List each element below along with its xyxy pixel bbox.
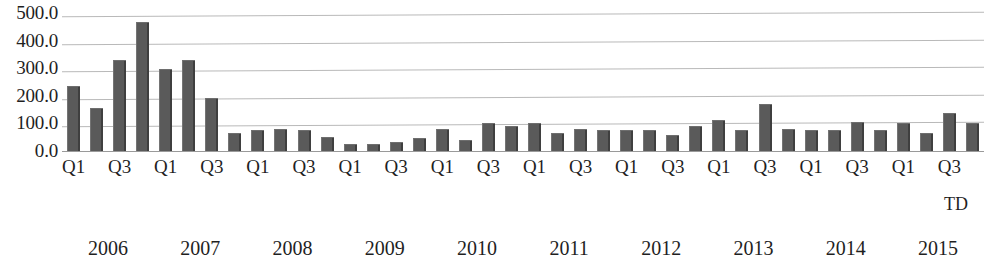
bar xyxy=(920,133,933,152)
quarter-tick-label: Q1 xyxy=(515,156,555,178)
bar xyxy=(782,129,795,152)
year-tick-label: 2007 xyxy=(170,236,230,260)
year-tick-label: 2011 xyxy=(539,236,599,260)
bar xyxy=(735,130,748,152)
bar xyxy=(505,126,518,152)
bar xyxy=(205,98,218,152)
bar xyxy=(620,130,633,152)
quarter-tick-label: Q1 xyxy=(330,156,370,178)
quarter-tick-label: Q3 xyxy=(468,156,508,178)
bar xyxy=(689,126,702,152)
quarter-tick-label: Q3 xyxy=(837,156,877,178)
quarter-tick-label: Q1 xyxy=(146,156,186,178)
bar xyxy=(643,130,656,152)
plot-area xyxy=(62,14,984,152)
bar xyxy=(67,86,80,152)
bar xyxy=(159,69,172,152)
year-tick-label: 2010 xyxy=(447,236,507,260)
quarter-tick-label: Q3 xyxy=(376,156,416,178)
quarter-tick-label: Q3 xyxy=(100,156,140,178)
year-tick-label: 2008 xyxy=(263,236,323,260)
bar xyxy=(182,60,195,152)
year-tick-label: 2013 xyxy=(724,236,784,260)
bar xyxy=(136,22,149,152)
bar xyxy=(874,130,887,152)
x-axis-line xyxy=(62,151,984,152)
quarter-tick-labels: Q1Q3Q1Q3Q1Q3Q1Q3Q1Q3Q1Q3Q1Q3Q1Q3Q1Q3Q1Q3 xyxy=(62,156,984,184)
bar xyxy=(712,120,725,152)
bar xyxy=(228,133,241,152)
bar xyxy=(966,123,979,152)
year-tick-label: 2015 xyxy=(908,236,968,260)
year-tick-label: 2009 xyxy=(355,236,415,260)
bar xyxy=(436,129,449,152)
y-tick-label: 200.0 xyxy=(16,86,58,105)
bar xyxy=(274,129,287,152)
quarter-tick-label: Q3 xyxy=(929,156,969,178)
bar xyxy=(321,137,334,152)
bar xyxy=(298,130,311,152)
year-tick-label: 2012 xyxy=(631,236,691,260)
bar xyxy=(551,133,564,152)
bar xyxy=(759,104,772,152)
bar xyxy=(528,123,541,152)
quarter-tick-label: Q1 xyxy=(607,156,647,178)
bar xyxy=(413,138,426,152)
bar-series xyxy=(62,14,984,152)
quarter-tick-label: Q1 xyxy=(422,156,462,178)
bar xyxy=(805,130,818,152)
quarter-tick-label: Q3 xyxy=(284,156,324,178)
year-tick-labels: 2006200720082009201020112012201320142015 xyxy=(62,236,984,266)
quarter-tick-label: Q1 xyxy=(699,156,739,178)
quarter-tick-label: Q3 xyxy=(561,156,601,178)
quarter-tick-label: Q3 xyxy=(192,156,232,178)
y-tick-label: 300.0 xyxy=(16,58,58,77)
quarter-tick-label: Q1 xyxy=(54,156,94,178)
x-axis-title: TD xyxy=(944,194,968,214)
bar xyxy=(482,123,495,152)
quarter-tick-label: Q1 xyxy=(238,156,278,178)
year-tick-label: 2006 xyxy=(78,236,138,260)
bar xyxy=(666,135,679,152)
bar xyxy=(113,60,126,152)
bar xyxy=(597,130,610,152)
bar xyxy=(90,108,103,152)
bar xyxy=(943,113,956,152)
y-axis: 500.0400.0300.0200.0100.00.0 xyxy=(0,0,62,160)
bar xyxy=(574,129,587,152)
quarter-tick-label: Q1 xyxy=(791,156,831,178)
quarter-tick-label: Q1 xyxy=(883,156,923,178)
bar xyxy=(851,122,864,152)
bar xyxy=(828,130,841,152)
quarter-tick-label: Q3 xyxy=(653,156,693,178)
quarter-tick-label: Q3 xyxy=(745,156,785,178)
y-tick-label: 400.0 xyxy=(16,31,58,50)
year-tick-label: 2014 xyxy=(816,236,876,260)
bar xyxy=(251,130,264,152)
bar xyxy=(897,123,910,152)
y-tick-label: 500.0 xyxy=(16,3,58,22)
quarterly-bar-chart: 500.0400.0300.0200.0100.00.0 Q1Q3Q1Q3Q1Q… xyxy=(0,0,986,269)
y-tick-label: 100.0 xyxy=(16,113,58,132)
